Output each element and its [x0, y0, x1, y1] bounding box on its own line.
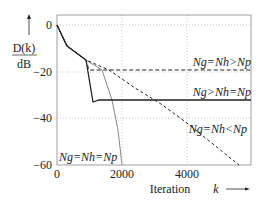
- y-tick-0: 0: [46, 18, 52, 32]
- x-tick-4000: 4000: [175, 167, 199, 181]
- x-label-variable: k: [213, 182, 219, 196]
- x-tick-0: 0: [54, 167, 60, 181]
- x-tick-2000: 2000: [110, 167, 134, 181]
- annotation-ng-gt-nh-eq-np: Ng>Nh=Np: [192, 85, 251, 99]
- chart: 0 −20 −40 −60 0 2000 4000 D(k) dB Iterat…: [0, 0, 267, 204]
- y-tick-minus40: −40: [33, 111, 52, 125]
- annotation-ng-eq-nh-lt-np: Ng=Nh<Np: [188, 122, 247, 136]
- y-axis-arrowhead-icon: [27, 14, 31, 19]
- x-axis-arrowhead-icon: [245, 188, 250, 191]
- x-label: Iteration: [150, 182, 191, 196]
- annotation-ng-eq-nh-eq-np: Ng=Nh=Np: [58, 150, 117, 164]
- y-tick-minus60: −60: [33, 158, 52, 172]
- annotation-ng-eq-nh-gt-np: Ng=Nh>Np: [192, 55, 251, 69]
- y-label-denominator: dB: [17, 57, 31, 71]
- y-label-numerator: D(k): [13, 41, 36, 55]
- y-tick-minus20: −20: [33, 65, 52, 79]
